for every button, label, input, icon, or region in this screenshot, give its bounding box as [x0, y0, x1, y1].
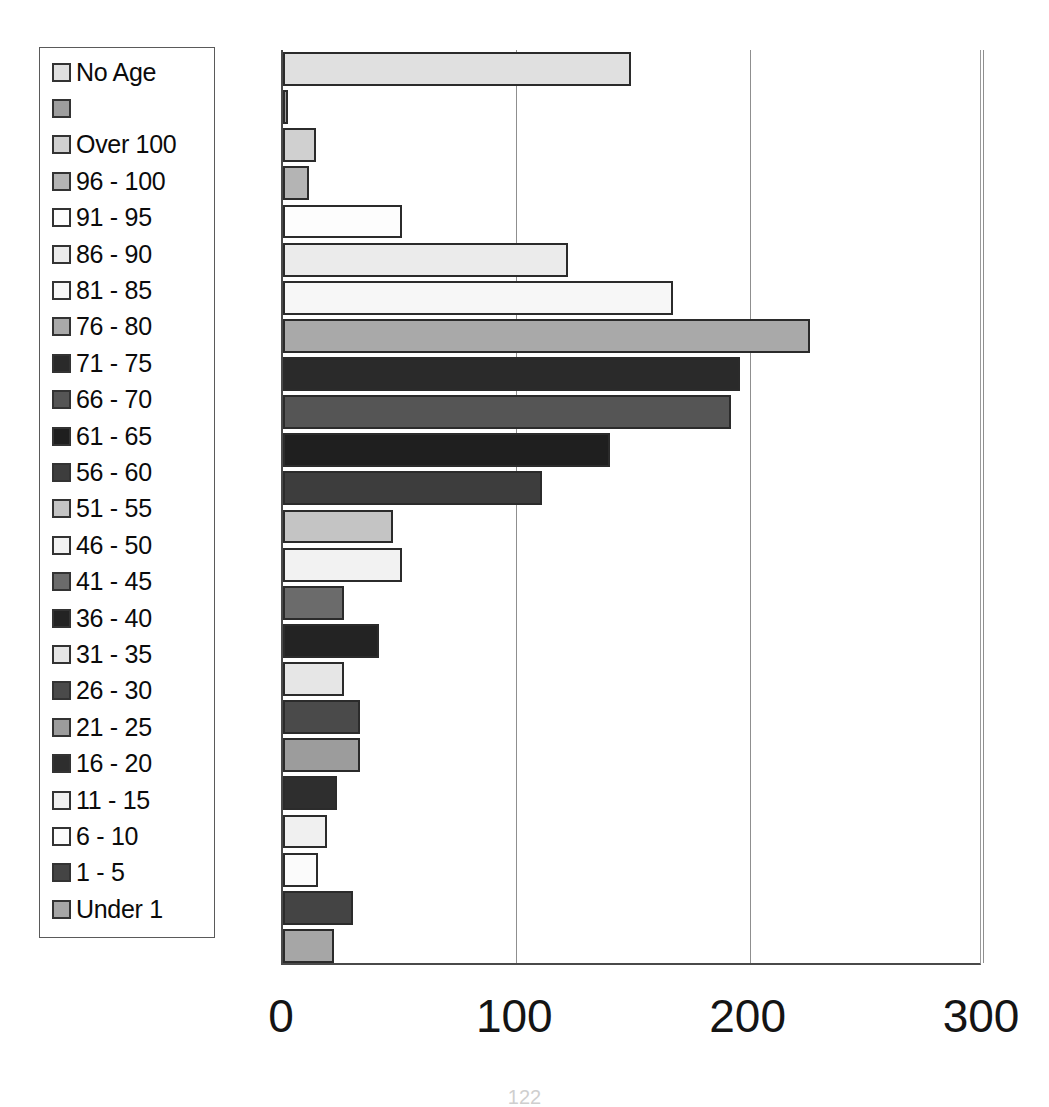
bar[interactable] [283, 166, 309, 200]
legend-swatch-icon [52, 754, 71, 773]
legend-item-label: Over 100 [76, 132, 176, 157]
bar[interactable] [283, 662, 344, 696]
legend-item[interactable] [52, 90, 214, 126]
legend-item[interactable]: 61 - 65 [52, 418, 214, 454]
legend-item[interactable]: 21 - 25 [52, 709, 214, 745]
bar[interactable] [283, 395, 731, 429]
legend-item-label: 81 - 85 [76, 278, 152, 303]
gridline [983, 50, 984, 963]
bar-row [283, 546, 980, 584]
legend-item-label: 6 - 10 [76, 824, 138, 849]
bar-row [283, 927, 980, 965]
legend-swatch-icon [52, 536, 71, 555]
legend-item[interactable]: 86 - 90 [52, 236, 214, 272]
legend-item-label: No Age [76, 60, 156, 85]
bar-row [283, 584, 980, 622]
legend-swatch-icon [52, 317, 71, 336]
legend-item[interactable]: 41 - 45 [52, 563, 214, 599]
legend-swatch-icon [52, 390, 71, 409]
legend-item-label: 71 - 75 [76, 351, 152, 376]
legend-item[interactable]: 66 - 70 [52, 382, 214, 418]
bar-row [283, 851, 980, 889]
bar[interactable] [283, 929, 334, 963]
bar[interactable] [283, 205, 402, 239]
legend-item-label: 56 - 60 [76, 460, 152, 485]
legend-item-label: 36 - 40 [76, 606, 152, 631]
legend-item-label: 61 - 65 [76, 424, 152, 449]
legend-item-label: Under 1 [76, 897, 163, 922]
bar[interactable] [283, 624, 379, 658]
legend-swatch-icon [52, 281, 71, 300]
legend-item[interactable]: 51 - 55 [52, 491, 214, 527]
legend-item-label: 21 - 25 [76, 715, 152, 740]
legend-item-label: 91 - 95 [76, 205, 152, 230]
bar[interactable] [283, 700, 360, 734]
bar-row [283, 203, 980, 241]
bar[interactable] [283, 548, 402, 582]
bar[interactable] [283, 52, 631, 86]
legend-item[interactable]: Over 100 [52, 127, 214, 163]
bar[interactable] [283, 243, 568, 277]
x-axis-tick-label: 200 [709, 990, 786, 1042]
x-axis-tick-labels: 0100200300 [0, 990, 1049, 1050]
bar[interactable] [283, 128, 316, 162]
legend-item-label: 41 - 45 [76, 569, 152, 594]
bar-row [283, 508, 980, 546]
legend-item[interactable]: 16 - 20 [52, 745, 214, 781]
legend-swatch-icon [52, 863, 71, 882]
legend-item[interactable]: No Age [52, 54, 214, 90]
bar[interactable] [283, 510, 393, 544]
bar-row [283, 431, 980, 469]
legend-item[interactable]: 81 - 85 [52, 272, 214, 308]
legend-swatch-icon [52, 208, 71, 227]
legend-item-label: 26 - 30 [76, 678, 152, 703]
bar[interactable] [283, 891, 353, 925]
bar-row [283, 698, 980, 736]
legend-item-label: 1 - 5 [76, 860, 125, 885]
chart-legend: No AgeOver 10096 - 10091 - 9586 - 9081 -… [39, 47, 215, 938]
bar-series [283, 50, 980, 963]
legend-swatch-icon [52, 718, 71, 737]
legend-swatch-icon [52, 499, 71, 518]
legend-item[interactable]: 91 - 95 [52, 200, 214, 236]
legend-item[interactable]: 11 - 15 [52, 782, 214, 818]
bar[interactable] [283, 776, 337, 810]
bar[interactable] [283, 433, 610, 467]
bar-row [283, 622, 980, 660]
bar-row [283, 393, 980, 431]
legend-item-label: 96 - 100 [76, 169, 165, 194]
legend-item[interactable]: Under 1 [52, 891, 214, 927]
bar[interactable] [283, 471, 542, 505]
bar-row [283, 88, 980, 126]
bar[interactable] [283, 281, 673, 315]
legend-item[interactable]: 26 - 30 [52, 673, 214, 709]
bar[interactable] [283, 738, 360, 772]
bar-row [283, 889, 980, 927]
bar-row [283, 660, 980, 698]
legend-item[interactable]: 31 - 35 [52, 636, 214, 672]
bar[interactable] [283, 853, 318, 887]
legend-item[interactable]: 96 - 100 [52, 163, 214, 199]
bar-row [283, 355, 980, 393]
x-axis-tick-label: 100 [476, 990, 553, 1042]
legend-swatch-icon [52, 900, 71, 919]
bar[interactable] [283, 357, 740, 391]
bar-row [283, 813, 980, 851]
legend-swatch-icon [52, 135, 71, 154]
legend-item[interactable]: 6 - 10 [52, 818, 214, 854]
bar-row [283, 736, 980, 774]
page-number: 122 [0, 1086, 1049, 1107]
legend-swatch-icon [52, 681, 71, 700]
legend-item[interactable]: 36 - 40 [52, 600, 214, 636]
x-axis-tick-label: 300 [943, 990, 1020, 1042]
legend-item[interactable]: 46 - 50 [52, 527, 214, 563]
legend-item[interactable]: 76 - 80 [52, 309, 214, 345]
bar[interactable] [283, 815, 327, 849]
legend-item[interactable]: 1 - 5 [52, 855, 214, 891]
bar[interactable] [283, 319, 810, 353]
legend-item[interactable]: 56 - 60 [52, 454, 214, 490]
bar[interactable] [283, 586, 344, 620]
legend-swatch-icon [52, 572, 71, 591]
legend-item[interactable]: 71 - 75 [52, 345, 214, 381]
bar[interactable] [283, 90, 288, 124]
